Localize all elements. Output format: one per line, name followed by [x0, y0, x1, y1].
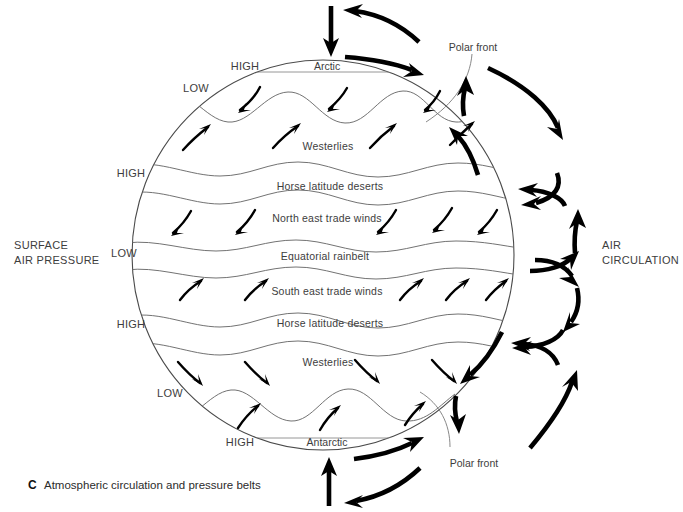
pressure-label-south-subtropical-high: HIGH	[117, 318, 146, 330]
circulation-arrow-antarctic-inflow	[354, 437, 424, 459]
pressure-label-south-subpolar-low: LOW	[157, 387, 183, 399]
zone-label-antarctic: Antarctic	[307, 436, 348, 448]
zone-label-south-horse-latitude-deserts: Horse latitude deserts	[277, 317, 384, 329]
wind-arrow-sp-2	[320, 405, 341, 430]
wind-arrow-se-5	[486, 278, 509, 300]
circulation-arrow-south-ascend	[530, 370, 578, 448]
pressure-label-north-subtropical-high: HIGH	[117, 167, 146, 179]
wind-arrow-ne-1	[171, 211, 191, 236]
equatorial-rainbelt-bottom-line	[126, 267, 520, 279]
wind-arrow-se-4	[446, 278, 470, 300]
wind-arrow-np-2	[327, 88, 347, 112]
pressure-label-south-polar-high: HIGH	[226, 436, 255, 448]
circulation-arrow-bottom-left	[344, 468, 420, 508]
surface-air-pressure-label-line2: AIR PRESSURE	[14, 254, 100, 266]
air-circulation-label-line2: CIRCULATION	[602, 254, 679, 266]
wind-arrow-ne-5	[477, 210, 497, 235]
wind-arrow-sp-1	[238, 403, 261, 428]
wind-arrow-nw-3	[370, 123, 397, 148]
south-horse-latitude-bottom-line	[130, 341, 516, 356]
surface-air-pressure-label-line1: SURFACE	[14, 239, 68, 251]
circulation-arrow-right-descend-lower	[563, 288, 580, 332]
zone-label-north-east-trade-winds: North east trade winds	[272, 212, 381, 224]
zone-label-equatorial-rainbelt: Equatorial rainbelt	[281, 250, 369, 262]
circulation-arrow-arctic-inflow	[345, 57, 424, 77]
zone-label-arctic: Arctic	[314, 60, 340, 72]
zone-label-south-westerlies: Westerlies	[303, 356, 354, 368]
caption-text: Atmospheric circulation and pressure bel…	[44, 479, 261, 491]
wind-arrow-sw-4	[432, 360, 457, 384]
zone-label-north-westerlies: Westerlies	[303, 140, 354, 152]
wind-arrow-se-2	[245, 278, 269, 300]
caption-letter: C	[28, 478, 37, 492]
circulation-arrow-polar-front-south-inflow	[460, 332, 502, 384]
wind-arrow-nw-1	[183, 124, 211, 150]
zone-label-north-horse-latitude-deserts: Horse latitude deserts	[277, 180, 384, 192]
circulation-arrow-polar-front-up	[457, 76, 474, 116]
circulation-arrow-top-descend	[323, 6, 339, 57]
wind-arrow-sw-1	[178, 362, 203, 386]
polar-front-south-leader	[420, 392, 450, 447]
wind-arrow-ne-2	[235, 210, 255, 235]
north-horse-latitude-top-line	[130, 162, 516, 177]
circulation-arrow-top-left	[343, 4, 419, 42]
diagram-canvas: Arctic Westerlies Horse latitude deserts…	[0, 0, 683, 512]
pressure-label-north-polar-high: HIGH	[231, 60, 260, 72]
wind-arrow-sw-3	[355, 360, 380, 384]
wind-arrow-se-1	[180, 278, 204, 300]
circulation-arrow-right-descend-upper	[488, 68, 563, 140]
wind-arrow-nw-2	[273, 123, 301, 148]
front-label-polar-front-south: Polar front	[450, 457, 499, 469]
pressure-label-north-subpolar-low: LOW	[183, 82, 209, 94]
circulation-arrow-polar-front-south-down	[450, 396, 466, 434]
polar-front-north-line	[165, 91, 492, 123]
wind-arrow-se-3	[400, 278, 424, 300]
wind-arrow-sw-2	[245, 362, 270, 386]
wind-arrow-ne-4	[432, 208, 452, 233]
zone-label-south-east-trade-winds: South east trade winds	[271, 285, 382, 297]
pressure-label-equatorial-low: LOW	[111, 247, 137, 259]
front-label-polar-front-north: Polar front	[449, 41, 498, 53]
atmospheric-circulation-figure: Arctic Westerlies Horse latitude deserts…	[0, 0, 683, 512]
circulation-arrow-equator-ascend	[569, 209, 586, 253]
circulation-arrow-bottom-ascend	[321, 457, 337, 506]
air-circulation-label-line1: AIR	[602, 239, 621, 251]
north-horse-latitude-bottom-line	[130, 190, 516, 205]
